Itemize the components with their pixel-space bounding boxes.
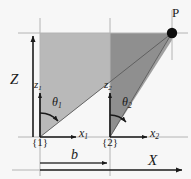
label-axis-x2-sub: 2 (155, 132, 159, 141)
label-world-z: Z (10, 72, 18, 87)
label-axis-z1-sub: 1 (38, 84, 42, 92)
point-p-marker (167, 28, 177, 38)
label-axis-x1-sub: 1 (84, 132, 88, 141)
label-axis-z2: z2 (104, 79, 112, 92)
label-world-x: X (148, 153, 157, 168)
label-axis-x1: x1 (79, 127, 88, 141)
label-axis-z2-sub: 2 (108, 84, 112, 92)
label-axis-z1: z1 (34, 79, 42, 92)
label-frame-2: {2} (102, 137, 118, 148)
label-axis-x2: x2 (150, 127, 159, 141)
label-angle-theta2: θ2 (122, 96, 132, 110)
label-angle-theta1-sub: 1 (58, 101, 62, 110)
figure-canvas (0, 0, 191, 179)
label-angle-theta2-sub: 2 (128, 101, 132, 110)
geometry-figure: Z X P b z1 z2 x1 x2 θ1 θ2 {1} {2} (0, 0, 191, 179)
label-baseline-b: b (71, 148, 78, 162)
label-angle-theta1: θ1 (52, 96, 62, 110)
label-point-p: P (172, 6, 179, 19)
label-frame-1: {1} (32, 137, 48, 148)
